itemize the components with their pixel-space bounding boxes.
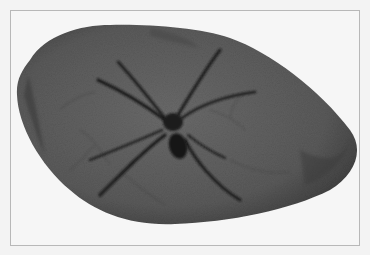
photograph — [0, 0, 370, 255]
fossil-illustration — [0, 0, 370, 255]
stone-slab — [17, 25, 357, 224]
